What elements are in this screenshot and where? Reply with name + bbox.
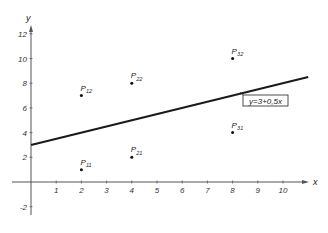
x-tick-label: 5 — [155, 186, 160, 195]
y-tick-label: -2 — [20, 203, 28, 212]
y-tick-label: 2 — [22, 153, 28, 162]
x-tick-label: 6 — [180, 186, 185, 195]
point-marker-icon — [130, 156, 133, 159]
data-point: P32 — [231, 47, 243, 61]
x-tick-label: 8 — [230, 186, 235, 195]
point-marker-icon — [231, 131, 234, 134]
data-point: P11 — [80, 158, 92, 172]
point-marker-icon — [80, 168, 83, 171]
x-tick-label: 3 — [104, 186, 109, 195]
data-point: P12 — [80, 84, 92, 98]
y-axis-label: y — [25, 13, 31, 23]
point-marker-icon — [130, 82, 133, 85]
y-tick-label: 6 — [23, 104, 28, 113]
equation-label: y=3+0,5x — [240, 92, 288, 106]
y-axis-arrow-icon — [29, 25, 33, 32]
ticks: 12345678910-224681012 — [18, 30, 288, 212]
regression-line — [31, 77, 308, 145]
y-tick-label: 10 — [18, 55, 27, 64]
point-marker-icon — [231, 57, 234, 60]
regression-chart: xy 12345678910-224681012 P11P12P21P22P31… — [0, 0, 328, 233]
regression-line-path — [31, 77, 308, 145]
x-tick-label: 9 — [256, 186, 261, 195]
point-label-subscript: 11 — [86, 162, 92, 168]
y-tick-label: 4 — [23, 129, 28, 138]
y-tick-label: 12 — [18, 30, 27, 39]
x-axis-arrow-icon — [302, 180, 309, 184]
point-label-subscript: 22 — [135, 76, 142, 82]
y-tick-label: 8 — [23, 79, 28, 88]
axes: xy — [12, 13, 318, 215]
x-tick-label: 4 — [130, 186, 135, 195]
point-label-subscript: 21 — [135, 150, 142, 156]
data-point: P22 — [130, 71, 142, 85]
data-points: P11P12P21P22P31P32 — [80, 47, 243, 172]
point-label-subscript: 32 — [237, 51, 243, 57]
x-tick-label: 1 — [54, 186, 58, 195]
x-tick-label: 7 — [205, 186, 210, 195]
x-tick-label: 10 — [279, 186, 288, 195]
point-marker-icon — [80, 94, 83, 97]
x-tick-label: 2 — [78, 186, 84, 195]
equation-text: y=3+0,5x — [248, 97, 283, 106]
x-axis-label: x — [312, 177, 318, 187]
point-label-subscript: 31 — [237, 125, 243, 131]
data-point: P21 — [130, 145, 142, 159]
point-label-subscript: 12 — [86, 88, 92, 94]
data-point: P31 — [231, 121, 243, 135]
